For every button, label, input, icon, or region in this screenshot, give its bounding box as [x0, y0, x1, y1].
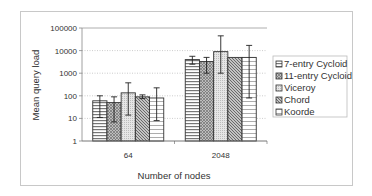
y-tick-label: 1 — [73, 137, 78, 146]
y-tick-label: 100000 — [50, 24, 77, 33]
legend: 7-entry Cycloid11-entry CycloidViceroyCh… — [273, 56, 352, 117]
bar-chart: 110100100010000100000 642048 Mean query … — [0, 0, 372, 196]
y-axis-title: Mean query load — [30, 50, 41, 121]
y-tick-label: 100 — [64, 92, 78, 101]
bar-chord-64 — [135, 97, 149, 141]
legend-label: 7-entry Cycloid — [284, 58, 347, 69]
legend-label: 11-entry Cycloid — [284, 70, 352, 81]
legend-label: Chord — [284, 94, 310, 105]
bar-chord-2048 — [228, 57, 242, 141]
y-tick-label: 10 — [68, 114, 77, 123]
y-tick-label: 10000 — [55, 47, 78, 56]
legend-label: Viceroy — [284, 82, 316, 93]
x-axis: 642048 — [82, 141, 267, 160]
legend-swatch — [276, 73, 282, 79]
legend-swatch — [276, 85, 282, 91]
legend-swatch — [276, 61, 282, 67]
y-tick-label: 1000 — [59, 69, 77, 78]
x-tick-label: 2048 — [212, 151, 230, 160]
legend-swatch — [276, 109, 282, 115]
legend-swatch — [276, 97, 282, 103]
bars — [93, 36, 257, 141]
legend-label: Koorde — [284, 106, 315, 117]
bar-7-entry-cycloid-2048 — [185, 60, 199, 141]
x-tick-label: 64 — [124, 151, 133, 160]
x-axis-title: Number of nodes — [138, 170, 211, 181]
